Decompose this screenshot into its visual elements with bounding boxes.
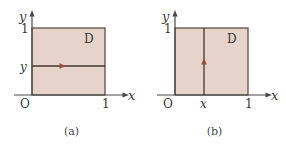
y-tick-y-label-a: y bbox=[20, 61, 27, 73]
x-axis-label-a: x bbox=[128, 89, 135, 102]
panel-b-caption: (b) bbox=[143, 125, 286, 138]
y-axis-arrowhead-a bbox=[29, 10, 34, 17]
x-tick-one-label-b: 1 bbox=[245, 98, 253, 110]
origin-label-a: O bbox=[20, 98, 30, 110]
panel-b: y x 1 O x 1 D (b) bbox=[143, 0, 286, 148]
y-tick-one-label-b: 1 bbox=[164, 23, 172, 35]
region-d-fill-b bbox=[175, 28, 248, 95]
x-tick-x-label-b: x bbox=[200, 98, 207, 110]
y-tick-one-label-a: 1 bbox=[21, 23, 29, 35]
y-axis-arrowhead-b bbox=[172, 10, 177, 17]
x-tick-one-label-a: 1 bbox=[102, 98, 110, 110]
figure-container: y x 1 y O 1 D (a) bbox=[0, 0, 286, 148]
region-label-d-a: D bbox=[84, 33, 94, 45]
region-label-d-b: D bbox=[227, 33, 237, 45]
origin-label-b: O bbox=[163, 98, 173, 110]
x-axis-label-b: x bbox=[271, 89, 278, 102]
panel-a-caption: (a) bbox=[0, 125, 143, 138]
region-d-fill-a bbox=[32, 28, 105, 95]
panel-a: y x 1 y O 1 D (a) bbox=[0, 0, 143, 148]
